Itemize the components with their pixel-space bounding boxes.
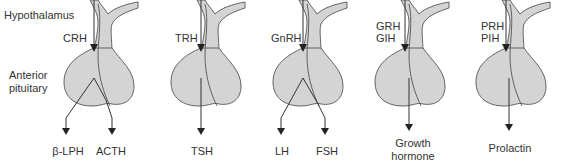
product-prolactin: Prolactin	[489, 142, 532, 154]
releasing-hormone-crh: CRH	[63, 32, 87, 44]
product-beta-lph: β-LPH	[52, 145, 83, 157]
releasing-hormone-gnrh: GnRH	[271, 32, 302, 44]
product-fsh: FSH	[316, 145, 338, 157]
panel-gnrh	[273, 0, 347, 135]
panel-trh	[171, 0, 245, 135]
product-growth-hormone-line2: hormone	[391, 150, 434, 162]
releasing-hormone-trh: TRH	[175, 32, 198, 44]
product-lh: LH	[275, 145, 289, 157]
releasing-hormone-gih: GIH	[376, 32, 396, 44]
product-acth: ACTH	[96, 145, 126, 157]
product-tsh: TSH	[191, 145, 213, 157]
anterior-pituitary-label-line1: Anterior	[9, 69, 48, 81]
product-growth-hormone-line1: Growth	[395, 137, 430, 149]
releasing-hormone-pih: PIH	[481, 32, 499, 44]
releasing-hormone-grh: GRH	[376, 20, 400, 32]
anterior-pituitary-label-line2: pituitary	[9, 82, 48, 94]
hypothalamus-label: Hypothalamus	[4, 9, 74, 21]
releasing-hormone-prh: PRH	[481, 20, 504, 32]
